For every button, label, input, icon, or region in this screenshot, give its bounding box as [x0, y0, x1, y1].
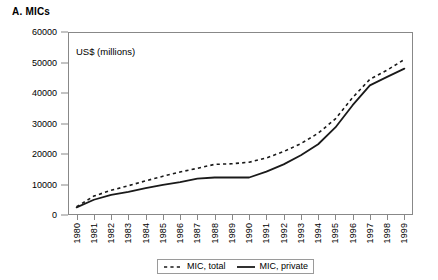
- x-axis-tick-label: 1997: [365, 223, 375, 243]
- x-axis-tick: [180, 215, 181, 220]
- x-axis-tick: [284, 215, 285, 220]
- legend-key-dashed-icon: [163, 263, 183, 271]
- x-axis-tick: [197, 215, 198, 220]
- x-axis-tick-label: 1990: [244, 223, 254, 243]
- legend-label: MIC, total: [187, 262, 226, 271]
- x-axis-tick: [266, 215, 267, 220]
- x-axis-tick-label: 1985: [158, 223, 168, 243]
- x-axis-tick: [146, 215, 147, 220]
- x-axis-tick: [163, 215, 164, 220]
- x-axis-tick: [370, 215, 371, 220]
- x-axis-tick-label: 1998: [382, 223, 392, 243]
- x-axis-tick: [215, 215, 216, 220]
- x-axis-tick-label: 1987: [192, 223, 202, 243]
- legend-item-mic-private: MIC, private: [236, 262, 309, 271]
- x-axis-tick-label: 1991: [261, 223, 271, 243]
- x-axis-tick-label: 1996: [348, 223, 358, 243]
- x-axis-tick-label: 1983: [123, 223, 133, 243]
- x-axis-tick: [387, 215, 388, 220]
- x-axis-tick: [232, 215, 233, 220]
- figure-panel-a-mics: A. MICs US$ (millions) 01000020000300004…: [0, 0, 438, 280]
- x-axis-tick: [111, 215, 112, 220]
- x-axis-tick: [318, 215, 319, 220]
- x-axis-tick-label: 1993: [296, 223, 306, 243]
- x-axis-tick-label: 1982: [106, 223, 116, 243]
- legend-key-solid-icon: [236, 263, 256, 271]
- x-axis-tick-label: 1981: [89, 223, 99, 243]
- legend-item-mic-total: MIC, total: [163, 262, 226, 271]
- legend-label: MIC, private: [260, 262, 309, 271]
- x-axis-tick-label: 1999: [399, 223, 409, 243]
- x-axis-tick-label: 1995: [330, 223, 340, 243]
- x-axis-tick-label: 1984: [141, 223, 151, 243]
- x-axis-tick-label: 1994: [313, 223, 323, 243]
- x-axis-tick-label: 1992: [279, 223, 289, 243]
- x-axis-tick: [404, 215, 405, 220]
- x-axis-tick: [128, 215, 129, 220]
- x-axis-tick: [335, 215, 336, 220]
- x-axis-tick-label: 1988: [210, 223, 220, 243]
- series-layer: [68, 32, 413, 215]
- x-axis-tick: [77, 215, 78, 220]
- legend: MIC, total MIC, private: [157, 259, 314, 274]
- x-axis-tick-label: 1980: [72, 223, 82, 243]
- x-axis-tick: [94, 215, 95, 220]
- series-line-mic-total: [77, 59, 405, 206]
- x-axis-tick-label: 1989: [227, 223, 237, 243]
- x-axis-tick: [353, 215, 354, 220]
- x-axis-tick: [249, 215, 250, 220]
- x-axis-tick: [301, 215, 302, 220]
- x-axis-tick-label: 1986: [175, 223, 185, 243]
